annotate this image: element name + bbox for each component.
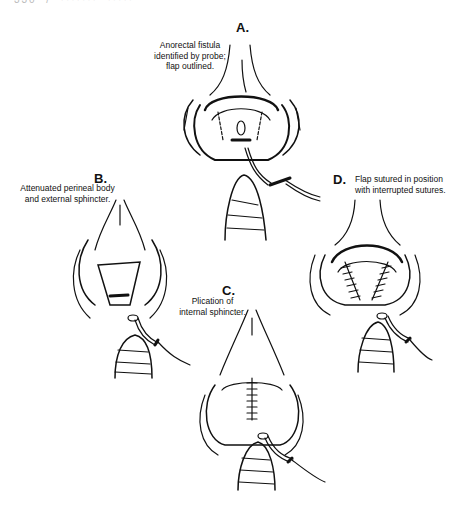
panel-a-drawing: [184, 45, 320, 240]
panel-d-drawing: [310, 200, 432, 372]
surgical-illustration: [0, 0, 467, 508]
panel-c-drawing: [200, 310, 325, 490]
panel-b-drawing: [73, 200, 190, 378]
